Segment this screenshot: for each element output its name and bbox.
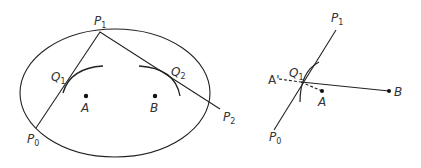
label-a-prime-right: A'	[268, 73, 280, 87]
right-panel	[274, 30, 389, 130]
label-b-left: B	[150, 101, 158, 115]
ray-q1-to-b	[301, 82, 389, 91]
tangent-line-p0-p1	[274, 30, 336, 130]
label-p2-left: P2	[223, 110, 235, 126]
label-p1-left: P1	[94, 14, 106, 30]
label-a-left: A	[80, 101, 89, 115]
left-panel	[20, 29, 220, 157]
wavefront-arc-a	[63, 66, 103, 93]
ellipse-reflection-diagram: P1 P0 P2 Q1 Q2 A B P1 P0 Q1 A' A B	[0, 0, 421, 168]
point-a-dot-right	[320, 89, 324, 93]
ellipse-curve	[20, 29, 210, 157]
focus-b-dot	[153, 94, 157, 98]
label-q1-left: Q1	[51, 70, 66, 86]
label-q1-right: Q1	[289, 66, 304, 82]
point-b-dot-right	[387, 89, 391, 93]
wavefront-arc-right	[300, 62, 319, 102]
label-p0-right: P0	[269, 130, 281, 146]
label-q2-left: Q2	[171, 65, 186, 81]
label-a-right: A	[317, 95, 326, 109]
label-b-right: B	[394, 85, 402, 99]
focus-a-dot	[84, 94, 88, 98]
label-p1-right: P1	[331, 11, 343, 27]
label-p0-left: P0	[27, 132, 39, 148]
